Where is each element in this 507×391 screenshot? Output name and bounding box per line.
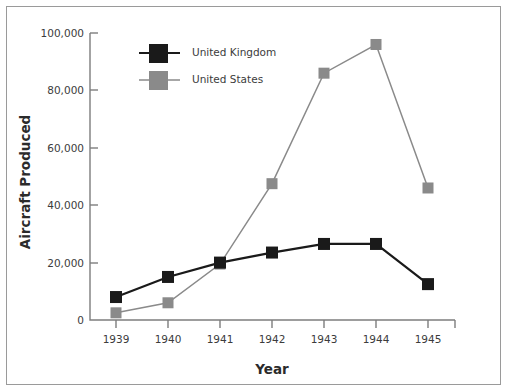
data-point-marker <box>110 291 122 303</box>
y-axis-tick-labels: 100,000 80,000 60,000 40,000 20,000 0 <box>41 27 84 326</box>
data-point-marker <box>111 307 122 318</box>
series-united-kingdom <box>110 238 434 303</box>
x-tick-label: 1945 <box>415 333 442 345</box>
y-tick-label: 100,000 <box>41 27 84 39</box>
x-tick-label: 1942 <box>259 333 286 345</box>
x-tick-label: 1939 <box>103 333 130 345</box>
data-point-marker <box>266 247 278 259</box>
data-point-marker <box>163 297 174 308</box>
x-axis-title: Year <box>254 361 289 377</box>
x-tick-label: 1944 <box>363 333 390 345</box>
data-point-marker <box>162 271 174 283</box>
x-tick-label: 1943 <box>311 333 338 345</box>
data-point-marker <box>318 238 330 250</box>
data-point-marker <box>370 238 382 250</box>
data-point-marker <box>214 257 226 269</box>
y-tick-label: 40,000 <box>47 199 84 211</box>
legend-swatch-uk <box>149 44 168 63</box>
y-axis-ticks <box>90 33 98 263</box>
legend-label-uk: United Kingdom <box>192 46 276 58</box>
legend-item-united-states[interactable]: United States <box>139 71 263 90</box>
x-tick-label: 1940 <box>155 333 182 345</box>
y-axis-title: Aircraft Produced <box>17 115 33 249</box>
uk-markers <box>110 238 434 303</box>
y-tick-label: 20,000 <box>47 257 84 269</box>
data-point-marker <box>267 178 278 189</box>
legend-swatch-us <box>149 71 168 90</box>
data-point-marker <box>423 182 434 193</box>
x-tick-label: 1941 <box>207 333 234 345</box>
x-axis-tick-labels: 1939 1940 1941 1942 1943 1944 1945 <box>103 333 442 345</box>
x-axis-ticks <box>116 320 455 328</box>
legend-item-united-kingdom[interactable]: United Kingdom <box>139 44 276 63</box>
data-point-marker <box>371 39 382 50</box>
data-point-marker <box>422 278 434 290</box>
chart-figure: 100,000 80,000 60,000 40,000 20,000 0 19… <box>0 0 507 391</box>
y-tick-label: 60,000 <box>47 142 84 154</box>
y-tick-label: 80,000 <box>47 84 84 96</box>
y-tick-label: 0 <box>77 314 84 326</box>
legend-label-us: United States <box>192 73 263 85</box>
axis-spines <box>90 33 455 320</box>
data-point-marker <box>319 68 330 79</box>
chart-legend: United Kingdom United States <box>139 44 276 90</box>
line-chart: 100,000 80,000 60,000 40,000 20,000 0 19… <box>0 0 507 391</box>
